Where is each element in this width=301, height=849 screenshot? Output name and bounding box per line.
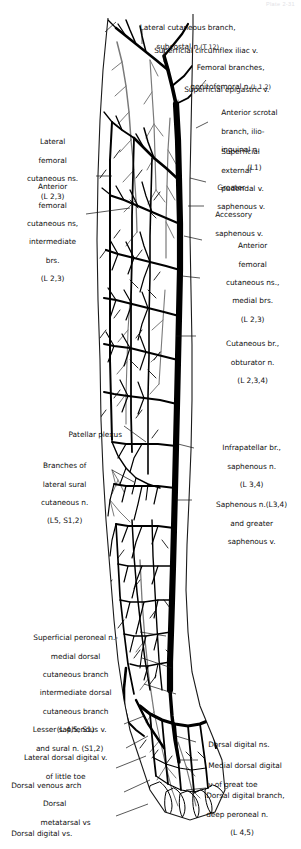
- label-cutaneous-br-obturator: Cutaneous br., obturator n. (L 2,3,4): [198, 330, 298, 394]
- label-branches-lateral-sural-cutaneous: Branches of lateral sural cutaneous n. (…: [6, 452, 114, 535]
- label-saphenous-n-and-greater-saphenous-v: Saphenous n.(L3,4) and greater saphenous…: [194, 491, 300, 555]
- anatomy-plate: Plate 2-31: [0, 0, 301, 849]
- label-anterior-femoral-cutaneous-intermediate: Anterior femoral cutaneous ns, intermedi…: [2, 173, 94, 293]
- label-infrapatellar-br-saphenous: Infrapatellar br., saphenous n. (L 3,4): [196, 434, 298, 498]
- label-dorsal-digital-branch-deep-peroneal: Dorsal digital branch, deep peroneal n. …: [197, 782, 301, 846]
- label-patellar-plexus: Patellar plexus: [10, 421, 122, 449]
- label-dorsal-digital-vs: Dorsal digital vs.: [2, 820, 122, 848]
- label-anterior-femoral-cutaneous-medial: Anterior femoral cutaneous ns., medial b…: [200, 232, 296, 333]
